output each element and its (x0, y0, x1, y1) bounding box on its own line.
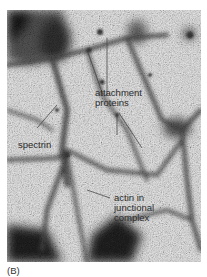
label-attachment-proteins: attachment proteins (95, 88, 142, 108)
label-actin-junctional-complex: actin in junctional complex (114, 193, 154, 223)
micrograph-image (7, 10, 201, 262)
label-actin-line3: complex (114, 213, 154, 223)
label-attachment-line2: proteins (95, 98, 142, 108)
panel-label: (B) (7, 265, 20, 276)
electron-micrograph: attachment proteins spectrin actin in ju… (7, 10, 201, 262)
figure: attachment proteins spectrin actin in ju… (0, 0, 207, 277)
label-spectrin: spectrin (18, 140, 51, 150)
